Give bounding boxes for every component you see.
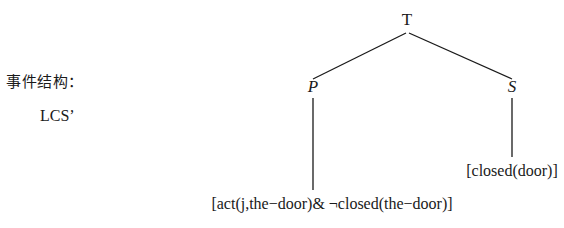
lcs-label: LCS’	[40, 106, 176, 126]
tree-node-s: S	[508, 77, 517, 97]
tree-node-p: P	[308, 77, 318, 97]
tree-node-t: T	[402, 10, 412, 30]
edge-root-to-p	[313, 33, 406, 79]
edge-root-to-s	[409, 33, 512, 79]
tree-leaf-p-formula: [act(j,the−door)& ¬closed(the−door)]	[211, 193, 452, 214]
event-structure-tree-figure: 事件结构： LCS’ T P S [act(j,the−door)& ¬clos…	[0, 0, 564, 228]
event-structure-label: 事件结构：	[6, 72, 176, 92]
tree-leaf-s-formula: [closed(door)]	[466, 160, 558, 181]
figure-row-labels: 事件结构： LCS’	[6, 72, 176, 126]
tree-diagram: T P S [act(j,the−door)& ¬closed(the−door…	[180, 0, 564, 228]
